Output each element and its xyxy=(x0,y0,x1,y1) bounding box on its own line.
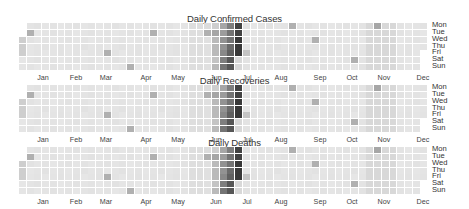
heatmap-cell xyxy=(351,99,358,105)
heatmap-cell xyxy=(366,119,373,125)
heatmap-cell xyxy=(420,147,427,153)
heatmap-cell xyxy=(359,85,366,91)
heatmap-cell xyxy=(227,119,234,125)
heatmap-cell xyxy=(320,188,327,194)
heatmap-cell xyxy=(212,161,219,167)
heatmap-cell xyxy=(34,57,41,63)
heatmap-cell xyxy=(181,181,188,187)
heatmap-cell xyxy=(189,99,196,105)
heatmap-cell xyxy=(251,126,258,132)
heatmap-cell xyxy=(173,92,180,98)
heatmap-cell xyxy=(413,99,420,105)
heatmap-cell xyxy=(289,161,296,167)
heatmap-cell xyxy=(181,44,188,50)
heatmap-cell xyxy=(189,85,196,91)
heatmap-cell xyxy=(42,44,49,50)
heatmap-cell xyxy=(243,99,250,105)
heatmap-cell xyxy=(312,92,319,98)
heatmap-cell xyxy=(336,112,343,118)
heatmap-cell xyxy=(266,147,273,153)
heatmap-cell xyxy=(81,119,88,125)
heatmap-cell xyxy=(343,37,350,43)
heatmap-cell xyxy=(382,30,389,36)
heatmap-cell xyxy=(88,85,95,91)
heatmap-cell xyxy=(150,112,157,118)
heatmap-cell xyxy=(112,64,119,70)
heatmap-cell xyxy=(34,119,41,125)
heatmap-cell xyxy=(42,154,49,160)
heatmap-cell xyxy=(328,64,335,70)
heatmap-cell xyxy=(243,188,250,194)
heatmap-cell xyxy=(359,154,366,160)
heatmap-cell xyxy=(212,112,219,118)
heatmap-cell xyxy=(281,30,288,36)
heatmap-cell xyxy=(251,85,258,91)
heatmap-cell xyxy=(390,99,397,105)
heatmap-cell xyxy=(382,154,389,160)
heatmap-cell xyxy=(235,92,242,98)
heatmap-cell xyxy=(88,168,95,174)
heatmap-cell xyxy=(204,23,211,29)
heatmap-cell xyxy=(220,23,227,29)
heatmap-cell xyxy=(274,99,281,105)
heatmap-cell xyxy=(58,174,65,180)
heatmap-cell xyxy=(413,57,420,63)
heatmap-cell xyxy=(42,64,49,70)
heatmap-cell xyxy=(204,181,211,187)
heatmap-cell xyxy=(212,106,219,112)
heatmap-cell xyxy=(289,50,296,56)
heatmap-cell xyxy=(127,50,134,56)
heatmap-cell xyxy=(420,188,427,194)
heatmap-cell xyxy=(366,168,373,174)
heatmap-cell xyxy=(88,161,95,167)
heatmap-cell xyxy=(289,168,296,174)
heatmap-cell xyxy=(312,154,319,160)
heatmap-cell xyxy=(366,85,373,91)
heatmap-cell xyxy=(336,37,343,43)
heatmap-cell xyxy=(73,112,80,118)
heatmap-cell xyxy=(189,112,196,118)
heatmap-cell xyxy=(258,85,265,91)
heatmap-cell xyxy=(227,174,234,180)
heatmap-cell xyxy=(166,57,173,63)
heatmap-cell xyxy=(351,154,358,160)
heatmap-cell xyxy=(150,30,157,36)
heatmap-cell xyxy=(143,30,150,36)
heatmap-cell xyxy=(336,64,343,70)
heatmap-cell xyxy=(243,161,250,167)
heatmap-cell xyxy=(143,50,150,56)
heatmap-cell xyxy=(173,44,180,50)
heatmap-cell xyxy=(197,161,204,167)
heatmap-cell xyxy=(88,147,95,153)
heatmap-cell xyxy=(127,99,134,105)
heatmap-cell xyxy=(112,147,119,153)
heatmap-cell xyxy=(127,57,134,63)
heatmap-cell xyxy=(58,57,65,63)
heatmap-cell xyxy=(227,112,234,118)
heatmap-cell xyxy=(220,106,227,112)
heatmap-cell xyxy=(65,50,72,56)
heatmap-cell xyxy=(158,181,165,187)
heatmap-cell xyxy=(351,37,358,43)
heatmap-cell xyxy=(96,147,103,153)
heatmap-cell xyxy=(173,57,180,63)
heatmap-cell xyxy=(336,50,343,56)
heatmap-cell xyxy=(289,154,296,160)
heatmap-cell xyxy=(281,106,288,112)
heatmap-cell xyxy=(143,64,150,70)
heatmap-cell xyxy=(390,85,397,91)
heatmap-cell xyxy=(297,126,304,132)
heatmap-cell xyxy=(328,147,335,153)
heatmap-cell xyxy=(320,106,327,112)
heatmap-cell xyxy=(104,181,111,187)
heatmap-cell xyxy=(266,23,273,29)
heatmap-cell xyxy=(104,168,111,174)
heatmap-cell xyxy=(382,85,389,91)
heatmap-cell xyxy=(289,188,296,194)
heatmap-cell xyxy=(119,119,126,125)
heatmap-cell xyxy=(104,92,111,98)
heatmap-cell xyxy=(34,126,41,132)
heatmap-cell xyxy=(343,168,350,174)
heatmap-cell xyxy=(289,174,296,180)
heatmap-cell xyxy=(50,37,57,43)
